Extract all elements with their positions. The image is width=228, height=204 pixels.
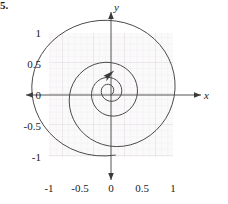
- spiral-figure: 5. -1 -0.5 0 0.5 1 1 0: [0, 0, 228, 204]
- x-axis-label: x: [204, 90, 209, 101]
- y-tick-label-neg1: -1: [6, 152, 41, 163]
- y-tick-label-neg0-5: -0.5: [0, 121, 41, 132]
- x-tick-label-neg1: -1: [44, 183, 53, 194]
- x-tick-label-1: 1: [170, 183, 176, 194]
- y-axis-bottom-arrowhead: [108, 173, 114, 180]
- y-axis-top-arrowhead: [108, 12, 114, 19]
- x-axis-right-arrowhead: [194, 92, 201, 98]
- x-tick-label-0-5: 0.5: [135, 183, 149, 194]
- y-axis-label: y: [114, 2, 119, 13]
- y-tick-label-1: 1: [10, 28, 41, 39]
- x-tick-label-0: 0: [108, 183, 114, 194]
- y-tick-label-0-5: 0.5: [4, 59, 41, 70]
- y-tick-label-0: 0: [10, 90, 41, 101]
- x-tick-label-neg0-5: -0.5: [71, 183, 88, 194]
